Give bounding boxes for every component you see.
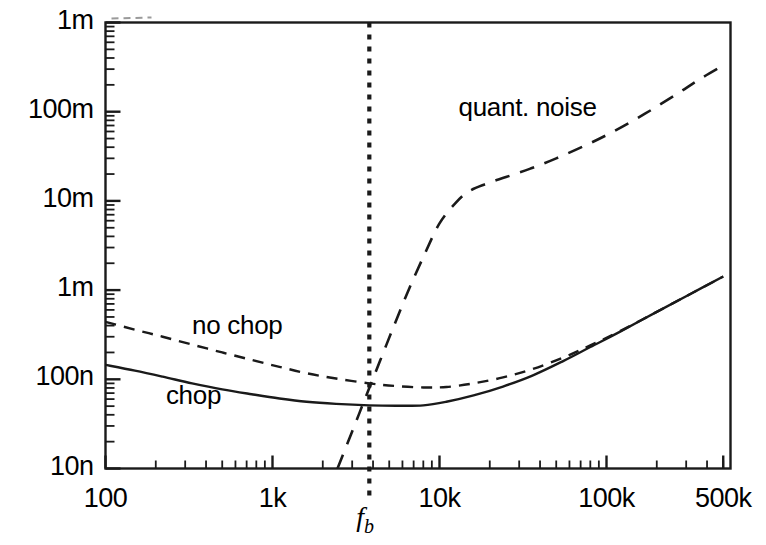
x-tick-label-500k: 500k	[643, 483, 766, 514]
x-tick-label-100: 100	[26, 483, 186, 514]
y-tick-label-10m: 10m	[42, 183, 93, 214]
fb-subscript: b	[364, 514, 374, 536]
x-tick-label-10k: 10k	[360, 483, 520, 514]
noise-spectrum-plot	[0, 0, 766, 545]
y-tick-label-1m-mid: 1m	[57, 272, 94, 303]
annotation-quant-noise: quant. noise	[459, 92, 597, 123]
fb-symbol: f	[356, 501, 364, 532]
y-tick-label-100m: 100m	[28, 94, 94, 125]
y-tick-label-10n: 10n	[50, 451, 94, 482]
x-tick-label-1k: 1k	[193, 483, 353, 514]
series-path-quant-noise	[337, 65, 723, 468]
annotation-chop: chop	[166, 380, 221, 411]
annotation-no-chop: no chop	[192, 310, 282, 341]
y-tick-label-1m-top: 1m	[57, 5, 94, 36]
figure-root: 1m 100m 10m 1m 100n 10n 100 1k 10k 100k …	[0, 0, 766, 545]
fb-axis-label: fb	[356, 501, 374, 538]
y-tick-label-100n: 100n	[35, 361, 93, 392]
